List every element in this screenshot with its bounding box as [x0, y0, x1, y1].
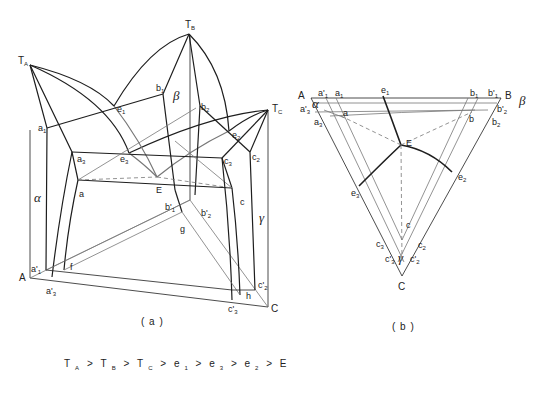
label-a: a [79, 189, 84, 199]
label-b-c3-prime: c'3 [385, 254, 395, 265]
order-term: e2 [245, 358, 259, 371]
base-line-a-c [46, 270, 232, 290]
label-b-A: A [298, 90, 305, 101]
solvus-b1p-g [175, 190, 182, 212]
label-c2: c2 [252, 152, 261, 163]
caption-figure-a: ( a ) [141, 316, 164, 327]
label-e3: e3 [120, 154, 129, 165]
figure-a-labels: TA TB TC A C a1 b1 b2 e1 e2 e3 a3 c3 c2 … [18, 19, 283, 315]
label-b-e3: e3 [351, 188, 360, 199]
label-h: h [246, 291, 251, 301]
label-c3-prime: c'3 [228, 304, 238, 315]
label-c: c [240, 197, 245, 207]
label-E: E [156, 185, 162, 195]
label-c3: c3 [224, 156, 233, 167]
label-f: f [70, 262, 73, 272]
label-b1-prime: b'1 [165, 202, 176, 213]
label-gamma-phase: γ [259, 210, 265, 225]
label-b-a3-prime: a'3 [300, 104, 311, 115]
label-a3-prime: a'3 [46, 286, 57, 297]
solvus-c3-c3p [222, 158, 232, 300]
caption-figure-b: ( b ) [392, 321, 415, 332]
valley-e3-E [359, 145, 401, 186]
label-alpha-phase: α [34, 190, 42, 205]
solvus-c-h [232, 188, 240, 295]
label-b-gamma-phase: γ [398, 250, 404, 265]
label-b-a1: a1 [335, 88, 344, 99]
label-b-a: a [343, 108, 348, 118]
label-TC: TC [272, 103, 283, 115]
order-gt: > [231, 358, 237, 369]
label-TB: TB [185, 19, 195, 31]
tie-a1-b1 [47, 94, 163, 128]
label-b-c2-prime: c'2 [410, 254, 420, 265]
order-term: e3 [209, 358, 223, 371]
order-term: TC [137, 358, 152, 371]
label-c2-prime: c'2 [258, 280, 268, 291]
order-gt: > [266, 358, 272, 369]
triangle-ABC [311, 98, 501, 276]
order-gt: > [160, 358, 166, 369]
label-e2: e2 [232, 130, 241, 141]
order-term: TA [64, 358, 79, 371]
label-b-b: b [469, 114, 474, 124]
label-b-c3: c3 [376, 239, 385, 250]
label-b-b2: b2 [492, 117, 501, 128]
label-A: A [19, 272, 26, 283]
liquidus-TB-e2 [189, 34, 229, 131]
label-b-E: E [406, 138, 412, 148]
solidus-c3 [222, 110, 268, 158]
liquidus-TA-e3 [30, 65, 129, 153]
label-b-e2: e2 [458, 172, 467, 183]
label-b-b1-prime: b'1 [488, 88, 499, 99]
label-a1-prime: a'1 [31, 264, 42, 275]
solvus-b2 [189, 34, 200, 195]
eutectic-a-E [78, 177, 157, 180]
label-b-C: C [398, 281, 405, 292]
order-gt: > [87, 358, 93, 369]
tie-E-c [401, 145, 402, 262]
solvus-a3-a3p [52, 152, 72, 277]
liquidus-TC-e2 [229, 110, 268, 131]
label-beta-phase: β [172, 88, 180, 103]
label-b-alpha-phase: α [312, 96, 320, 111]
tie-a3-c3 [72, 152, 232, 188]
valley-e1-E [114, 106, 157, 177]
label-b-a1-prime: a'1 [318, 88, 329, 99]
label-b-b1: b1 [470, 88, 479, 99]
temperature-order-inequality: TA > TB > TC > e1 > e3 > e2 > E [64, 358, 297, 371]
eutectic-plane-a-c [78, 180, 232, 188]
label-b2: b2 [201, 102, 210, 113]
solvus-line-b [402, 98, 468, 240]
valley-e3-E [129, 153, 157, 177]
label-b-c: c [406, 220, 411, 230]
base-line-g-h [182, 212, 240, 295]
label-C: C [271, 303, 278, 314]
order-term: TB [101, 358, 116, 371]
label-b-b2-prime: b'2 [497, 104, 508, 115]
label-b2-prime: b'2 [201, 208, 212, 219]
order-term: e1 [174, 358, 188, 371]
label-b-e1: e1 [381, 85, 390, 96]
figure-a-prism [30, 34, 268, 307]
label-a3: a3 [77, 154, 86, 165]
base-line-f-g [64, 212, 182, 270]
label-b1: b1 [156, 83, 165, 94]
label-g: g [180, 224, 185, 234]
label-b-c2: c2 [418, 240, 427, 251]
solvus-a-f [64, 180, 78, 270]
order-gt: > [123, 358, 129, 369]
label-b-beta-phase: β [518, 93, 526, 108]
solvus-c2 [250, 110, 268, 290]
order-term: E [280, 358, 292, 369]
valley-e2-E [157, 131, 229, 177]
label-TA: TA [18, 55, 28, 67]
order-gt: > [196, 358, 202, 369]
ternary-phase-diagram: TA TB TC A C a1 b1 b2 e1 e2 e3 a3 c3 c2 … [0, 0, 544, 394]
label-b-B: B [505, 90, 512, 101]
solvus-b1 [163, 34, 189, 190]
